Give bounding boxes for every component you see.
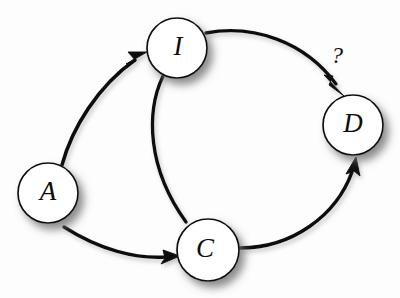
graph-svg: A I D C ? <box>0 0 400 298</box>
nodes-layer: A I D C <box>18 18 383 281</box>
edge-i-to-d-path <box>206 31 336 84</box>
edge-a-to-c-path <box>64 227 166 257</box>
node-d[interactable]: D <box>323 95 383 155</box>
edge-i-to-d-arrowhead <box>324 75 344 96</box>
edge-a-to-c <box>64 227 180 264</box>
node-c-label: C <box>196 233 215 263</box>
node-a[interactable]: A <box>18 163 78 223</box>
edge-c-to-d-path <box>240 172 352 248</box>
edge-c-to-d <box>240 157 360 248</box>
edge-a-to-i-arrowhead <box>126 52 147 64</box>
diagram-canvas: A I D C ? <box>0 0 400 298</box>
node-c[interactable]: C <box>177 219 239 281</box>
node-a-label: A <box>38 176 57 206</box>
edge-i-to-d <box>206 31 344 96</box>
node-d-label: D <box>342 108 363 138</box>
edge-question-mark-label: ? <box>331 42 343 68</box>
edge-a-to-i-path <box>62 60 135 165</box>
edge-i-to-c-path <box>153 76 186 222</box>
node-i[interactable]: I <box>147 18 207 78</box>
edge-i-to-c <box>153 76 186 222</box>
edge-labels-layer: ? <box>331 42 343 68</box>
edge-a-to-i <box>62 52 147 165</box>
